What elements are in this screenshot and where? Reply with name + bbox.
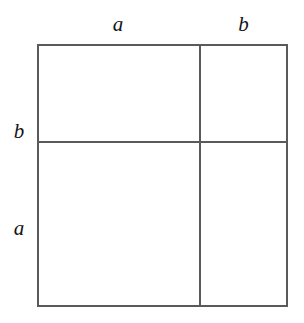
top-segment-label-b: b (199, 14, 288, 35)
left-segment-label-b: b (6, 82, 32, 180)
region-bottom-left (39, 143, 199, 305)
algebraic-area-diagram: a b b a (0, 0, 304, 323)
region-top-right (201, 46, 286, 141)
left-segment-label-a: a (6, 215, 32, 241)
region-top-left (39, 46, 199, 141)
region-bottom-right (201, 143, 286, 305)
top-segment-label-a: a (37, 14, 199, 35)
